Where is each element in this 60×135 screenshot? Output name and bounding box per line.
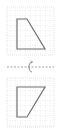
reflection-diagram xyxy=(0,0,60,135)
bottom-grid xyxy=(7,78,54,127)
top-grid xyxy=(7,7,54,55)
top-grid-panel xyxy=(7,7,54,55)
bottom-grid-panel xyxy=(7,78,54,127)
mirror-axis xyxy=(7,61,54,73)
